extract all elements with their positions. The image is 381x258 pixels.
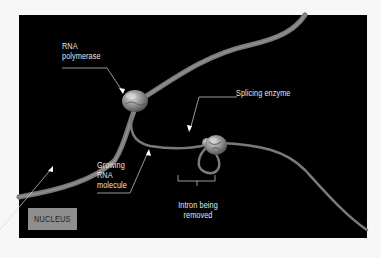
splicing-enzyme-blob [202, 135, 227, 155]
rna-strand-tail [222, 143, 367, 230]
label-growing-rna-line2: RNA [97, 170, 127, 180]
label-splicing-enzyme: Splicing enzyme [236, 88, 291, 98]
label-intron-line1: Intron being [174, 200, 222, 210]
rna-strand [131, 108, 205, 148]
label-growing-rna-line3: molecule [97, 180, 127, 190]
label-growing-rna-line1: Growing [97, 160, 127, 170]
label-rna-polymerase-line2: polymerase [62, 51, 101, 61]
diagram-canvas: RNA polymerase Splicing enzyme Growing R… [0, 0, 381, 258]
nucleus-tag: NUCLEUS [28, 208, 77, 230]
label-splicing-enzyme-text: Splicing enzyme [236, 88, 291, 98]
label-growing-rna: Growing RNA molecule [97, 160, 127, 190]
label-intron-line2: removed [174, 210, 222, 220]
rna-polymerase-blob [122, 90, 148, 112]
label-rna-polymerase-line1: RNA [62, 41, 101, 51]
label-intron: Intron being removed [174, 200, 222, 220]
label-rna-polymerase: RNA polymerase [62, 41, 101, 61]
nucleus-tag-label: NUCLEUS [34, 214, 71, 224]
